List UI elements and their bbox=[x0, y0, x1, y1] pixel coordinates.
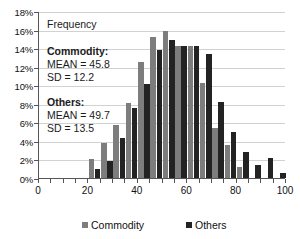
x-axis-tick-mark bbox=[87, 179, 88, 183]
legend-item-commodity: Commodity bbox=[82, 219, 144, 231]
x-axis-tick-mark bbox=[162, 179, 163, 183]
commodity-mean-value: MEAN = 45.8 bbox=[47, 58, 110, 71]
legend-swatch-commodity-icon bbox=[82, 222, 88, 228]
x-axis-tick-label: 40 bbox=[131, 185, 142, 196]
x-axis-labels: 020406080100 bbox=[38, 185, 285, 199]
x-axis-tick-mark bbox=[63, 179, 64, 183]
y-axis-tick-label: 12% bbox=[15, 62, 33, 73]
bar-commodity-55 bbox=[175, 46, 181, 178]
bar-others-50 bbox=[169, 40, 175, 178]
bar-group-container bbox=[39, 12, 285, 178]
bar-others-35 bbox=[132, 108, 138, 179]
x-axis-tick-mark bbox=[137, 179, 138, 183]
bar-commodity-50 bbox=[163, 31, 169, 178]
y-axis-tick-label: 18% bbox=[15, 7, 33, 18]
plot-area: Frequency Commodity: MEAN = 45.8 SD = 12… bbox=[38, 12, 285, 179]
bar-others-30 bbox=[120, 138, 126, 178]
bar-others-60 bbox=[194, 46, 200, 178]
bar-commodity-60 bbox=[188, 46, 194, 178]
bar-commodity-25 bbox=[101, 143, 107, 178]
legend-label-others: Others bbox=[195, 219, 227, 231]
bar-commodity-20 bbox=[89, 159, 95, 178]
legend-swatch-others-icon bbox=[186, 222, 192, 228]
commodity-sd-value: SD = 12.2 bbox=[47, 71, 110, 84]
bar-others-25 bbox=[107, 161, 113, 178]
x-axis-tick-label: 0 bbox=[35, 185, 41, 196]
bar-others-65 bbox=[206, 54, 212, 178]
y-axis-tick-label: 4% bbox=[20, 136, 33, 147]
y-axis-tick-label: 6% bbox=[20, 118, 33, 129]
bar-commodity-75 bbox=[225, 145, 231, 178]
x-axis-tick-mark bbox=[186, 179, 187, 183]
x-axis-tick-mark bbox=[236, 179, 237, 183]
x-axis-tick-mark bbox=[112, 179, 113, 183]
bar-others-55 bbox=[181, 46, 187, 178]
commodity-stats-annotation: Commodity: MEAN = 45.8 SD = 12.2 bbox=[47, 45, 110, 84]
bar-commodity-70 bbox=[212, 128, 218, 178]
y-axis-labels: 0%2%4%6%8%10%12%14%16%18% bbox=[0, 12, 36, 179]
others-mean-value: MEAN = 49.7 bbox=[47, 109, 110, 122]
bar-commodity-30 bbox=[113, 125, 119, 178]
x-axis-tick-mark bbox=[50, 179, 51, 183]
bar-others-20 bbox=[95, 169, 101, 178]
y-axis-tick-label: 0% bbox=[20, 174, 33, 185]
bar-commodity-45 bbox=[150, 37, 156, 178]
x-axis-tick-mark bbox=[149, 179, 150, 183]
bar-others-90 bbox=[268, 158, 274, 178]
bar-others-70 bbox=[218, 102, 224, 178]
chart-legend: Commodity Others bbox=[38, 219, 285, 235]
x-axis-tick-label: 100 bbox=[277, 185, 294, 196]
x-axis-tick-mark bbox=[285, 179, 286, 183]
x-axis-tick-mark bbox=[100, 179, 101, 183]
x-axis-tick-mark bbox=[174, 179, 175, 183]
x-axis-tick-mark bbox=[38, 179, 39, 183]
frequency-axis-label: Frequency bbox=[47, 18, 97, 30]
others-sd-value: SD = 13.5 bbox=[47, 122, 110, 135]
bar-commodity-65 bbox=[200, 83, 206, 178]
others-stats-annotation: Others: MEAN = 49.7 SD = 13.5 bbox=[47, 96, 110, 135]
bar-others-40 bbox=[144, 84, 150, 178]
x-axis-tick-mark bbox=[75, 179, 76, 183]
legend-item-others: Others bbox=[186, 219, 227, 231]
bar-others-85 bbox=[255, 165, 261, 178]
frequency-histogram-chart: 0%2%4%6%8%10%12%14%16%18% Frequency Comm… bbox=[0, 0, 300, 239]
y-axis-tick-label: 14% bbox=[15, 44, 33, 55]
x-axis-tick-mark bbox=[211, 179, 212, 183]
bar-others-80 bbox=[243, 152, 249, 178]
y-axis-tick-label: 2% bbox=[20, 155, 33, 166]
bar-commodity-40 bbox=[138, 62, 144, 178]
bar-commodity-35 bbox=[126, 103, 132, 178]
x-axis-tick-mark bbox=[248, 179, 249, 183]
bar-others-75 bbox=[231, 132, 237, 178]
others-stats-heading: Others: bbox=[47, 96, 110, 109]
commodity-stats-heading: Commodity: bbox=[47, 45, 110, 58]
x-axis-ticks bbox=[38, 179, 285, 184]
y-axis-tick-label: 10% bbox=[15, 81, 33, 92]
x-axis-tick-mark bbox=[273, 179, 274, 183]
x-axis-tick-label: 80 bbox=[230, 185, 241, 196]
x-axis-tick-label: 60 bbox=[181, 185, 192, 196]
bar-others-95 bbox=[280, 173, 286, 178]
bar-commodity-80 bbox=[237, 167, 243, 178]
y-axis-tick-label: 16% bbox=[15, 25, 33, 36]
x-axis-tick-mark bbox=[223, 179, 224, 183]
legend-label-commodity: Commodity bbox=[91, 219, 144, 231]
x-axis-tick-label: 20 bbox=[82, 185, 93, 196]
bar-others-45 bbox=[157, 50, 163, 178]
y-axis-tick-label: 8% bbox=[20, 99, 33, 110]
x-axis-tick-mark bbox=[199, 179, 200, 183]
x-axis-tick-mark bbox=[260, 179, 261, 183]
x-axis-tick-mark bbox=[124, 179, 125, 183]
